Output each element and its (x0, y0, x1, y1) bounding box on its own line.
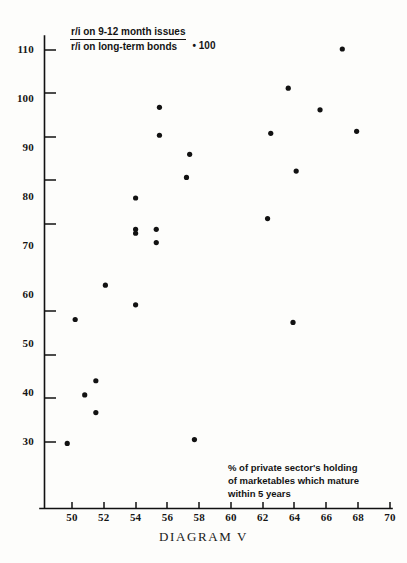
x-tick-label: 58 (187, 511, 211, 523)
annotation-line-3: within 5 years (228, 488, 359, 501)
annotation-line-2: of marketables which mature (228, 475, 359, 488)
axes-group (40, 36, 392, 509)
y-axis-ticks (45, 50, 56, 442)
chart-figure: 30405060708090100110 5052545658606264666… (0, 0, 407, 563)
data-point (93, 410, 98, 415)
ratio-numerator-label: r/i on 9-12 month issues (70, 26, 186, 40)
x-tick-label: 60 (219, 511, 243, 523)
data-point (157, 105, 162, 110)
data-point (340, 46, 345, 51)
data-point (294, 168, 299, 173)
y-tick-label: 80 (8, 190, 34, 202)
x-tick-label: 70 (378, 511, 402, 523)
x-tick-label: 54 (124, 511, 148, 523)
y-tick-label: 30 (8, 435, 34, 447)
data-point (184, 175, 189, 180)
x-axis-annotation: % of private sector's holding of marketa… (228, 462, 359, 500)
data-point (133, 302, 138, 307)
y-tick-label: 90 (8, 141, 34, 153)
y-tick-label: 50 (8, 337, 34, 349)
chart-title: DIAGRAM V (0, 529, 407, 545)
y-tick-label: 100 (8, 92, 34, 104)
y-tick-label: 60 (8, 288, 34, 300)
y-tick-label: 40 (8, 386, 34, 398)
x-tick-label: 52 (92, 511, 116, 523)
x-tick-label: 64 (283, 511, 307, 523)
x-tick-label: 66 (314, 511, 338, 523)
y-tick-label: 110 (8, 43, 34, 55)
data-point (268, 131, 273, 136)
x-tick-label: 62 (251, 511, 275, 523)
data-point (133, 195, 138, 200)
data-point (317, 107, 322, 112)
ratio-legend: r/i on 9-12 month issues r/i on long-ter… (70, 26, 215, 52)
y-tick-label: 70 (8, 239, 34, 251)
data-points-group (65, 46, 360, 446)
data-point (192, 437, 197, 442)
data-point (73, 317, 78, 322)
data-point (103, 283, 108, 288)
ratio-multiplier-label: • 100 (192, 40, 215, 52)
ratio-denominator-label: r/i on long-term bonds (70, 40, 186, 53)
data-point (286, 86, 291, 91)
data-point (290, 320, 295, 325)
data-point (187, 152, 192, 157)
data-point (265, 216, 270, 221)
x-tick-label: 50 (60, 511, 84, 523)
data-point (154, 240, 159, 245)
x-tick-label: 56 (155, 511, 179, 523)
data-point (157, 133, 162, 138)
data-point (354, 129, 359, 134)
data-point (82, 392, 87, 397)
ratio-fraction: r/i on 9-12 month issues r/i on long-ter… (70, 26, 186, 52)
data-point (93, 378, 98, 383)
data-point (65, 441, 70, 446)
data-point (133, 231, 138, 236)
data-point (154, 227, 159, 232)
annotation-line-1: % of private sector's holding (228, 462, 359, 475)
x-tick-label: 68 (346, 511, 370, 523)
